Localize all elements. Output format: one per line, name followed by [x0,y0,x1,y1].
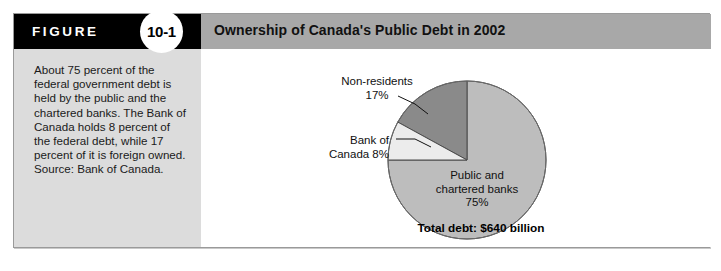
pie-label-bank-of-canada-line2: Canada 8% [297,148,389,162]
pie-label-non-residents-line2: 17% [321,89,433,103]
figure-caption: About 75 percent of the federal governme… [34,63,186,177]
pie-label-bank-of-canada: Bank of Canada 8% [297,134,389,161]
pie-label-non-residents: Non-residents 17% [321,75,433,102]
figure-title-band: Ownership of Canada's Public Debt in 200… [201,14,711,49]
page-title: Ownership of Canada's Public Debt in 200… [214,22,505,38]
pie-label-public-line3: 75% [419,196,535,210]
total-debt-note: Total debt: $640 billion [371,221,591,235]
figure-left-panel: FIGURE 10-1 About 75 percent of the fede… [14,14,201,247]
figure-number-badge: 10-1 [140,10,183,53]
pie-chart-svg [201,49,711,247]
figure-title-bar: FIGURE 10-1 [14,14,201,49]
figure-label: FIGURE [32,24,99,39]
pie-label-non-residents-line1: Non-residents [321,75,433,89]
pie-chart-area: Non-residents 17% Bank of Canada 8% Publ… [201,49,711,247]
figure-frame: FIGURE 10-1 About 75 percent of the fede… [13,13,710,248]
pie-label-public-line1: Public and [419,169,535,183]
pie-label-bank-of-canada-line1: Bank of [297,134,389,148]
pie-label-public-and-chartered-banks: Public and chartered banks 75% [419,169,535,210]
figure-number-text: 10-1 [147,23,176,40]
pie-label-public-line2: chartered banks [419,183,535,197]
